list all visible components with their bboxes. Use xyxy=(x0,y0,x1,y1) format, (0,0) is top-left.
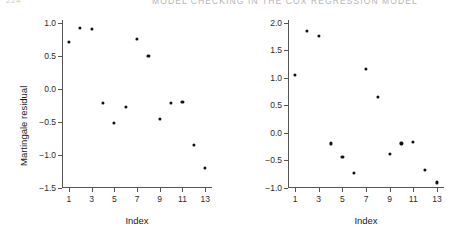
y-tick-label-right: 2.0 xyxy=(270,18,282,28)
x-tick-left xyxy=(205,188,206,192)
y-tick-left xyxy=(58,188,62,189)
y-tick-label-left: −1.5 xyxy=(39,183,56,193)
running-head-title: MODEL CHECKING IN THE COX REGRESSION MOD… xyxy=(152,0,418,6)
y-tick-left xyxy=(58,23,62,24)
y-tick-left xyxy=(58,122,62,123)
data-point xyxy=(204,166,207,169)
y-tick-label-left: 0.5 xyxy=(44,51,56,61)
data-point xyxy=(181,100,184,103)
data-point xyxy=(317,34,320,37)
data-point xyxy=(169,101,172,104)
y-tick-right xyxy=(284,105,288,106)
y-tick-label-left: 1.0 xyxy=(44,18,56,28)
plot-area-left: 1.00.50.0−0.5−1.0−1.5135791113 xyxy=(62,20,212,188)
y-tick-right xyxy=(284,23,288,24)
y-axis-left xyxy=(62,20,63,188)
y-tick-label-right: −1.0 xyxy=(265,183,282,193)
x-tick-label-left: 13 xyxy=(200,194,209,204)
y-tick-label-right: 0.0 xyxy=(270,128,282,138)
data-point xyxy=(135,38,138,41)
y-tick-label-right: −0.5 xyxy=(265,155,282,165)
x-tick-label-right: 9 xyxy=(387,194,392,204)
y-tick-label-left: 0.0 xyxy=(44,84,56,94)
y-tick-left xyxy=(58,155,62,156)
data-point xyxy=(376,96,379,99)
x-tick-label-left: 5 xyxy=(112,194,117,204)
x-tick-label-right: 3 xyxy=(316,194,321,204)
data-point xyxy=(305,29,308,32)
y-axis-right xyxy=(288,20,289,188)
data-point xyxy=(435,181,438,184)
figure-page: 224 MODEL CHECKING IN THE COX REGRESSION… xyxy=(0,0,458,237)
data-point xyxy=(412,141,415,144)
plot-area-right: 2.01.51.00.50.0−0.5−1.0135791113 xyxy=(288,20,444,188)
data-point xyxy=(158,117,161,120)
data-point xyxy=(293,73,296,76)
x-tick-right xyxy=(390,188,391,192)
x-tick-label-left: 1 xyxy=(66,194,71,204)
data-point xyxy=(124,105,127,108)
x-tick-left xyxy=(160,188,161,192)
y-tick-left xyxy=(58,56,62,57)
page-folio: 224 xyxy=(6,0,21,5)
x-tick-label-right: 5 xyxy=(340,194,345,204)
x-tick-right xyxy=(437,188,438,192)
y-tick-right xyxy=(284,78,288,79)
x-axis-label-right: Index xyxy=(354,215,377,226)
x-tick-label-left: 11 xyxy=(178,194,187,204)
chart-panel-deviance: 2.01.51.00.50.0−0.5−1.0135791113 Devianc… xyxy=(229,8,458,237)
x-tick-left xyxy=(114,188,115,192)
x-tick-left xyxy=(182,188,183,192)
y-tick-label-right: 1.5 xyxy=(270,45,282,55)
y-tick-right xyxy=(284,188,288,189)
data-point xyxy=(192,143,195,146)
x-tick-label-right: 13 xyxy=(432,194,441,204)
data-point xyxy=(364,67,367,70)
x-tick-label-right: 11 xyxy=(409,194,418,204)
x-tick-right xyxy=(413,188,414,192)
chart-panel-martingale: 1.00.50.0−0.5−1.0−1.5135791113 Martingal… xyxy=(0,8,229,237)
data-point xyxy=(329,142,332,145)
y-tick-label-left: −1.0 xyxy=(39,150,56,160)
data-point xyxy=(341,156,344,159)
x-tick-right xyxy=(319,188,320,192)
data-point xyxy=(388,152,391,155)
data-point xyxy=(79,26,82,29)
x-tick-right xyxy=(366,188,367,192)
y-tick-label-right: 0.5 xyxy=(270,100,282,110)
data-point xyxy=(400,142,403,145)
x-tick-label-right: 1 xyxy=(293,194,298,204)
data-point xyxy=(113,121,116,124)
data-point xyxy=(90,28,93,31)
data-point xyxy=(67,40,70,43)
data-point xyxy=(353,171,356,174)
x-tick-left xyxy=(92,188,93,192)
data-point xyxy=(101,101,104,104)
x-tick-label-left: 3 xyxy=(89,194,94,204)
x-tick-left xyxy=(69,188,70,192)
x-axis-label-left: Index xyxy=(125,215,148,226)
y-tick-label-left: −0.5 xyxy=(39,117,56,127)
x-tick-left xyxy=(137,188,138,192)
y-tick-label-right: 1.0 xyxy=(270,73,282,83)
y-tick-left xyxy=(58,89,62,90)
x-tick-right xyxy=(295,188,296,192)
data-point xyxy=(147,54,150,57)
x-tick-label-left: 9 xyxy=(157,194,162,204)
data-point xyxy=(423,168,426,171)
y-tick-right xyxy=(284,160,288,161)
y-tick-right xyxy=(284,133,288,134)
x-tick-label-right: 7 xyxy=(364,194,369,204)
y-axis-label-left: Martingale residual xyxy=(18,86,29,166)
y-tick-right xyxy=(284,50,288,51)
x-tick-right xyxy=(342,188,343,192)
x-tick-label-left: 7 xyxy=(135,194,140,204)
